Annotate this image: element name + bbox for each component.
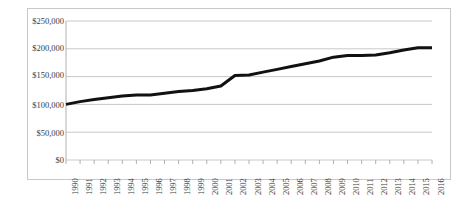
x-tick-label: 2006 [295, 178, 305, 195]
x-tick-label: 2008 [323, 178, 333, 195]
x-tick-label: 2007 [309, 178, 319, 195]
x-tick-label: 1999 [196, 178, 206, 195]
x-tick-label: 1995 [140, 178, 150, 195]
x-tick-label: 1990 [70, 178, 80, 195]
x-tick-label: 2002 [238, 178, 248, 195]
gridlines [66, 21, 432, 160]
x-tick-label: 2010 [351, 178, 361, 195]
x-tick-label: 2016 [436, 178, 446, 195]
x-tick-label: 2012 [379, 178, 389, 195]
x-tick-label: 1993 [112, 178, 122, 195]
x-tick-label: 2003 [253, 178, 263, 195]
x-tick-label: 2013 [393, 178, 403, 195]
x-tick-label: 1992 [98, 178, 108, 195]
x-tick-label: 2001 [224, 178, 234, 195]
data-series-line [66, 48, 432, 105]
x-tick-label: 1997 [168, 178, 178, 195]
x-tick-label: 2011 [365, 179, 375, 195]
x-tick-label: 2000 [210, 178, 220, 195]
x-axis: 1990199119921993199419951996199719981999… [66, 163, 436, 199]
x-tick-label: 2005 [281, 178, 291, 195]
x-tick-label: 2009 [337, 178, 347, 195]
x-tick-label: 2015 [421, 178, 431, 195]
x-tick-label: 1996 [154, 178, 164, 195]
x-tick-label: 1994 [126, 178, 136, 195]
x-tick-label: 2004 [267, 178, 277, 195]
x-tick-label: 2014 [407, 178, 417, 195]
x-tick-label: 1998 [182, 178, 192, 195]
chart-container: $250,000 $200,000 $150,000 $100,000 $50,… [0, 0, 456, 199]
x-tick-label: 1991 [84, 178, 94, 195]
